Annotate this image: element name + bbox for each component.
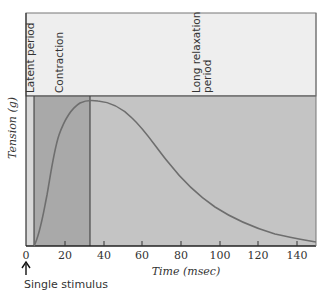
x-axis-label: Time (msec) <box>152 265 221 278</box>
svg-text:140: 140 <box>287 249 308 262</box>
svg-text:0: 0 <box>23 249 30 262</box>
twitch-chart: 0 20 40 60 80 100 120 140 Time (msec) Te… <box>0 0 327 297</box>
svg-text:80: 80 <box>174 249 188 262</box>
svg-text:60: 60 <box>135 249 149 262</box>
phase-label-band <box>26 13 316 96</box>
latent-region <box>26 96 34 246</box>
y-axis-label: Tension (g) <box>6 97 19 159</box>
svg-text:40: 40 <box>97 249 111 262</box>
stimulus-arrow-icon <box>22 262 30 275</box>
svg-text:100: 100 <box>210 249 231 262</box>
relaxation-label-line2: period <box>201 60 213 93</box>
svg-text:20: 20 <box>58 249 72 262</box>
x-tick-labels: 0 20 40 60 80 100 120 140 <box>23 249 308 262</box>
svg-text:120: 120 <box>248 249 269 262</box>
contraction-region <box>34 96 90 246</box>
latent-period-label: Latent period <box>24 23 36 93</box>
stimulus-label: Single stimulus <box>24 278 108 291</box>
contraction-label: Contraction <box>53 32 65 93</box>
relaxation-region <box>90 96 316 246</box>
